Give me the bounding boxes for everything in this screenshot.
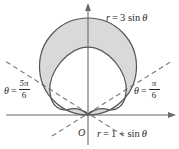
polar-graph-figure: r = 3 sin θ r = 1 + sin θ O θ = 5π 6 (0, 0, 179, 149)
cardioid-eq-r: r (97, 129, 101, 140)
circle-eq-rhs: 3 sin (120, 13, 140, 24)
label-theta-pi-over-6: θ = π 6 (134, 80, 160, 101)
theta-left-numerator: 5π (19, 79, 30, 89)
theta-right-symbol: θ (134, 86, 139, 96)
theta-right-equals: = (141, 86, 147, 96)
shade-fill (0, 0, 179, 149)
theta-right-fraction: π 6 (149, 79, 160, 100)
label-origin: O (78, 128, 85, 138)
cardioid-eq-theta: θ (142, 129, 147, 140)
label-circle-equation: r = 3 sin θ (106, 13, 147, 24)
circle-eq-r: r (106, 13, 110, 24)
polar-graph-canvas (0, 0, 179, 149)
theta-right-denominator: 6 (151, 90, 158, 100)
cardioid-eq-rhs: 1 + sin (111, 129, 140, 140)
shaded-region (0, 0, 179, 149)
label-theta-5pi-over-6: θ = 5π 6 (4, 80, 30, 101)
circle-eq-theta: θ (142, 13, 147, 24)
circle-eq-equals: = (112, 13, 118, 24)
theta-left-equals: = (11, 86, 17, 96)
cardioid-eq-equals: = (103, 129, 109, 140)
theta-right-numerator: π (151, 79, 158, 89)
theta-left-fraction: 5π 6 (19, 79, 30, 100)
theta-left-denominator: 6 (21, 90, 28, 100)
label-cardioid-equation: r = 1 + sin θ (97, 129, 147, 140)
theta-left-symbol: θ (4, 86, 9, 96)
